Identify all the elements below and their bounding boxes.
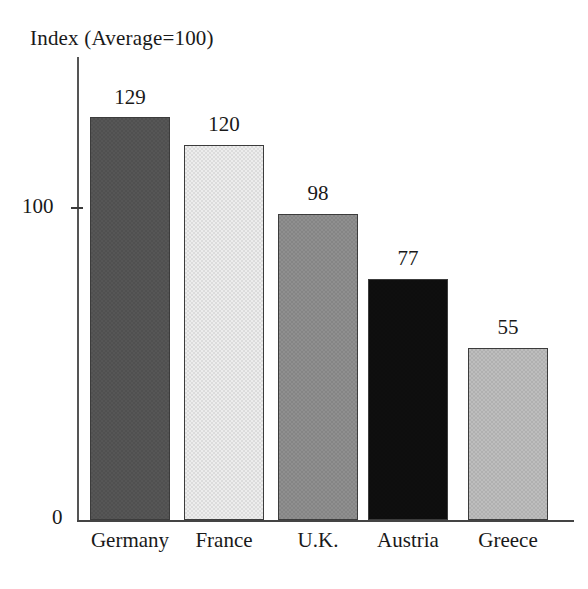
bar-value-austria: 77 xyxy=(353,246,463,271)
plot-area: 129 Germany 120 France 98 U.K. 77 Austri… xyxy=(0,0,588,589)
bar-greece xyxy=(468,348,548,520)
bar-chart: Index (Average=100) 100 0 129 Germany 12… xyxy=(0,0,588,589)
bar-uk xyxy=(278,214,358,520)
bar-value-germany: 129 xyxy=(75,85,185,110)
bar-value-uk: 98 xyxy=(263,181,373,206)
bar-value-france: 120 xyxy=(169,112,279,137)
bar-value-greece: 55 xyxy=(453,315,563,340)
bar-france xyxy=(184,145,264,520)
bar-germany xyxy=(90,117,170,520)
bar-austria xyxy=(368,279,448,520)
category-label-greece: Greece xyxy=(448,528,568,553)
